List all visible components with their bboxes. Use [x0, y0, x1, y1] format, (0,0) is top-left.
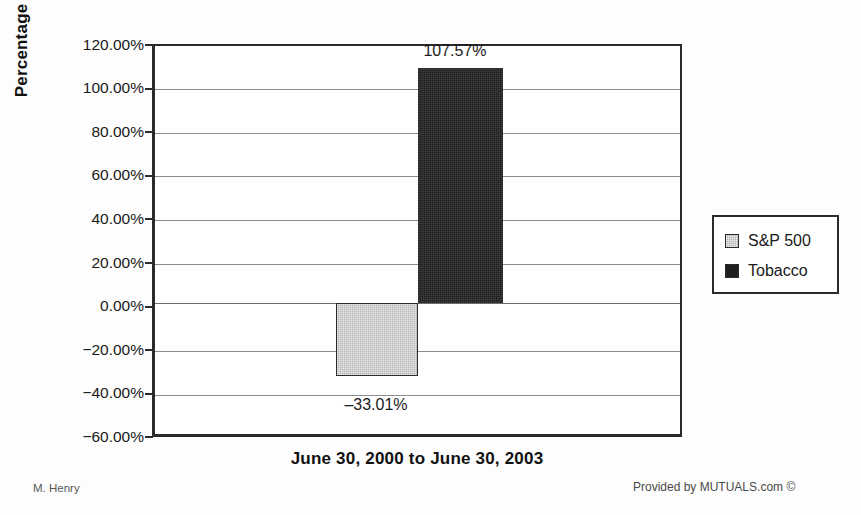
legend: S&P 500 Tobacco [712, 215, 839, 294]
y-tick-label: −60.00% [34, 429, 144, 444]
bar-tobacco[interactable] [418, 68, 503, 303]
y-axis-tick-labels: 120.00% 100.00% 80.00% 60.00% 40.00% 20.… [32, 0, 144, 515]
y-tick-label: −20.00% [34, 342, 144, 357]
plot-area [152, 44, 682, 437]
y-tick-label: 60.00% [34, 167, 144, 182]
data-label-sp500: –33.01% [296, 396, 456, 414]
legend-label: S&P 500 [748, 232, 811, 250]
y-tick-label: 100.00% [34, 80, 144, 95]
data-label-tobacco: 107.57% [375, 42, 535, 60]
provider-credit: Provided by MUTUALS.com © [633, 480, 795, 494]
legend-label: Tobacco [748, 262, 808, 280]
legend-swatch-icon [725, 234, 739, 248]
y-tick-label: 20.00% [34, 255, 144, 270]
legend-swatch-icon [725, 264, 739, 278]
y-tick-label: 80.00% [34, 124, 144, 139]
bar-sp500[interactable] [336, 303, 418, 376]
legend-item-sp500[interactable]: S&P 500 [725, 226, 837, 256]
chart-figure: Percentage Return 120.00% 100.00% 80.00%… [0, 0, 861, 515]
x-axis-title: June 30, 2000 to June 30, 2003 [152, 449, 682, 469]
legend-item-tobacco[interactable]: Tobacco [725, 256, 837, 286]
author-credit: M. Henry [33, 482, 80, 494]
y-tick-label: 120.00% [34, 37, 144, 52]
y-tick-label: 40.00% [34, 211, 144, 226]
y-tick-label: 0.00% [34, 298, 144, 313]
y-tick-label: −40.00% [34, 385, 144, 400]
